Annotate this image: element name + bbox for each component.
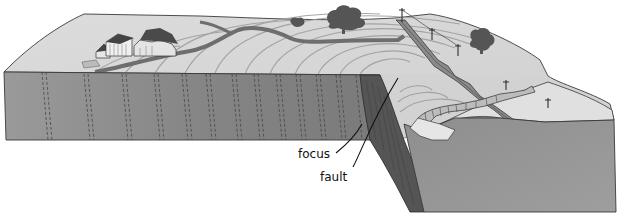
fault-label: fault: [320, 171, 347, 183]
fault-block-diagram: focus fault: [0, 0, 626, 217]
tree-icon: [327, 5, 365, 30]
left-block-front: [4, 72, 380, 140]
diagram-canvas: [0, 0, 626, 217]
focus-label: focus: [298, 148, 330, 160]
